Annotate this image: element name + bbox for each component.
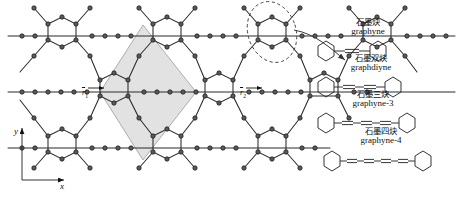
axis-label-y: y bbox=[14, 126, 18, 136]
structure-label-en-graphyne-4: graphyne-4 bbox=[336, 136, 426, 145]
structure-label-en-graphyne-3: graphyne-3 bbox=[330, 99, 416, 108]
r2-subscript: 2 bbox=[243, 93, 246, 99]
figure-canvas: 石墨炔 graphyne 石墨双炔 graphdiyne 石墨三炔 graphy… bbox=[0, 0, 463, 199]
lattice-vector-r2-label: r2 bbox=[240, 88, 246, 99]
lattice-vector-r1-label: r1 bbox=[82, 88, 88, 99]
r1-subscript: 1 bbox=[85, 93, 88, 99]
callout-ellipse bbox=[240, 0, 305, 69]
structure-label-en-graphyne: graphyne bbox=[330, 27, 406, 36]
axis-label-x: x bbox=[60, 181, 64, 191]
structure-label-en-graphdiyne: graphdiyne bbox=[328, 63, 414, 72]
coordinate-axes bbox=[22, 128, 64, 180]
structure-graphyne-4 bbox=[324, 151, 431, 171]
